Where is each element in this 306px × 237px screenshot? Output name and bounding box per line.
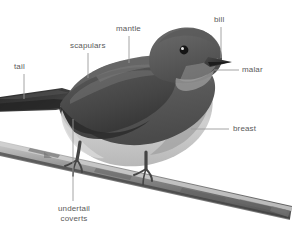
label-mantle: mantle: [116, 24, 141, 34]
label-undertail-coverts-line2: coverts: [50, 214, 98, 224]
label-bill: bill: [214, 15, 224, 25]
bird-illustration: [0, 0, 306, 237]
label-malar: malar: [242, 65, 263, 75]
label-scapulars: scapulars: [70, 41, 106, 51]
label-tail: tail: [14, 62, 25, 72]
label-breast: breast: [233, 124, 256, 134]
bird-eye: [180, 46, 189, 55]
bird-anatomy-figure: tail scapulars mantle bill malar breast …: [0, 0, 306, 237]
label-undertail-coverts: undertail coverts: [50, 204, 98, 224]
label-undertail-coverts-line1: undertail: [50, 204, 98, 214]
